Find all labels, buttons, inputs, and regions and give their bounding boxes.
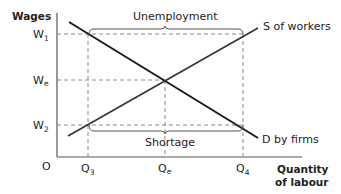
y-tick-w2: W2 <box>33 119 49 134</box>
labour-market-diagram: Wages W1 We W2 O Q3 Qe Q4 Quantity of la… <box>0 0 341 194</box>
x-axis-title-line1: Quantity <box>277 163 329 175</box>
unemployment-label: Unemployment <box>133 10 218 23</box>
origin-label: O <box>42 160 51 173</box>
x-tick-q3: Q3 <box>81 162 95 177</box>
demand-label: D by firms <box>262 133 319 146</box>
y-axis-title: Wages <box>12 10 51 22</box>
demand-curve <box>69 22 258 138</box>
x-tick-qe: Qe <box>158 162 172 176</box>
y-tick-we: We <box>33 74 49 88</box>
shortage-bracket <box>89 125 243 134</box>
x-axis-title-line2: of labour <box>275 176 329 188</box>
y-tick-w1: W1 <box>33 28 49 43</box>
supply-label: S of workers <box>263 20 331 33</box>
shortage-label: Shortage <box>145 136 195 149</box>
x-tick-q4: Q4 <box>236 162 250 177</box>
unemployment-bracket <box>89 26 243 34</box>
